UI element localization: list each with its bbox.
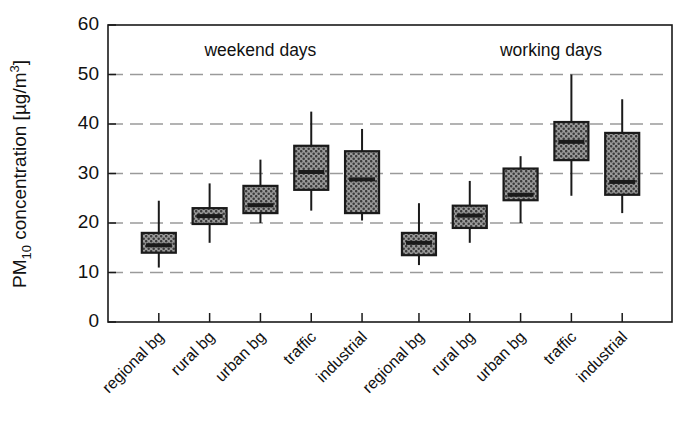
group-label: weekend days — [203, 40, 316, 60]
y-axis-ticks — [108, 25, 116, 322]
svg-text:PM10 concentration [µg/m3]: PM10 concentration [µg/m3] — [7, 60, 34, 288]
grid-lines — [110, 75, 670, 273]
y-tick-label: 10 — [78, 261, 99, 282]
y-tick-label: 30 — [78, 162, 99, 183]
y-tick-label: 0 — [88, 310, 99, 331]
chart-container: 0102030405060 regional bgrural bgurban b… — [0, 0, 682, 436]
x-tick-label: rural bg — [167, 328, 217, 378]
x-tick-label: urban bg — [472, 328, 529, 385]
box-plot — [504, 156, 538, 223]
y-axis-tick-labels: 0102030405060 — [78, 13, 99, 331]
x-tick-label: regional bg — [359, 328, 427, 396]
group-label: working days — [499, 40, 602, 60]
y-axis-title: PM10 concentration [µg/m3] — [7, 60, 34, 288]
box-plot — [605, 99, 639, 213]
boxplot-figure: 0102030405060 regional bgrural bgurban b… — [0, 0, 682, 436]
x-tick-label: urban bg — [212, 328, 269, 385]
box-plot — [294, 112, 328, 211]
box-plot — [345, 129, 379, 221]
x-axis-tick-labels: regional bgrural bgurban bgtrafficindust… — [99, 328, 630, 396]
x-tick-label: rural bg — [428, 328, 478, 378]
x-tick-label: regional bg — [99, 328, 167, 396]
box-plot — [554, 75, 588, 196]
y-tick-label: 40 — [78, 112, 99, 133]
y-tick-label: 50 — [78, 63, 99, 84]
y-tick-label: 60 — [78, 13, 99, 34]
y-tick-label: 20 — [78, 211, 99, 232]
x-axis-ticks — [159, 313, 622, 322]
box-plot — [453, 181, 487, 243]
box-plot — [193, 183, 227, 242]
box-plot — [402, 203, 436, 265]
box-plot — [142, 201, 176, 268]
group-annotations: weekend daysworking days — [203, 40, 602, 60]
x-tick-label: industrial — [313, 328, 370, 385]
x-tick-label: industrial — [573, 328, 630, 385]
x-tick-label: traffic — [280, 328, 319, 367]
box-plot — [243, 160, 277, 223]
box-plot-series — [142, 75, 639, 268]
x-tick-label: traffic — [540, 328, 579, 367]
